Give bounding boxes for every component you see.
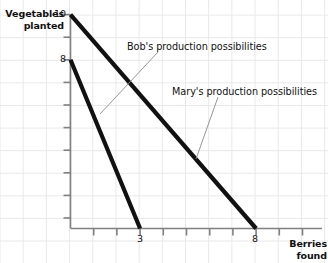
y-tick-label-10: 10 — [52, 8, 66, 19]
plot-area — [0, 0, 328, 263]
x-axis-title-line2: found — [285, 250, 327, 262]
x-axis-title-line1: Berries — [285, 238, 327, 250]
series-label-mary: Mary's production possibilities — [172, 86, 317, 97]
x-tick-label-8: 8 — [247, 233, 263, 244]
y-tick-label-8: 8 — [52, 53, 66, 64]
y-axis-ticks — [64, 15, 71, 218]
series-label-bob: Bob's production possibilities — [127, 41, 267, 52]
x-tick-label-3: 3 — [132, 233, 148, 244]
leader-line-mary — [196, 97, 218, 159]
chart-figure: Vegetables planted Berries found 10 8 3 … — [0, 0, 328, 263]
x-axis-ticks — [94, 229, 303, 236]
x-axis-title: Berries found — [285, 238, 327, 261]
y-axis-title-line2: planted — [2, 20, 64, 32]
